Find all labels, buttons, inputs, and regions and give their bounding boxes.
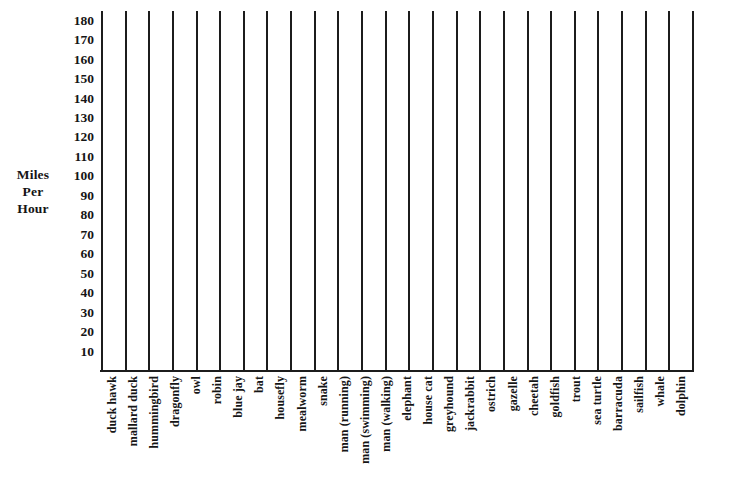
y-tick-label: 40 [34, 286, 94, 300]
x-label-slot: man (swimming) [354, 374, 375, 502]
grid-line [172, 11, 174, 371]
grid-line [503, 11, 505, 371]
x-label-slot: dolphin [671, 374, 692, 502]
x-axis-label: man (walking) [380, 376, 392, 452]
grid-line [125, 11, 127, 371]
y-tick-label: 70 [34, 228, 94, 242]
y-tick-label: 120 [34, 131, 94, 145]
x-label-slot: whale [650, 374, 671, 502]
x-axis-label: greyhound [443, 376, 455, 432]
x-axis-label: owl [190, 376, 202, 394]
x-label-slot: mallard duck [122, 374, 143, 502]
x-axis-label: blue jay [232, 376, 244, 418]
x-axis-label: mallard duck [127, 376, 139, 446]
x-label-slot: goldfish [544, 374, 565, 502]
x-axis-label: duck hawk [106, 376, 118, 433]
y-tick-label: 90 [34, 189, 94, 203]
x-label-slot: gazelle [502, 374, 523, 502]
grid-line [361, 11, 363, 371]
grid-line [692, 11, 694, 371]
x-axis-label: cheetah [528, 376, 540, 416]
x-axis-label: snake [317, 376, 329, 406]
x-axis-label: trout [570, 376, 582, 402]
x-label-slot: elephant [397, 374, 418, 502]
grid-line [550, 11, 552, 371]
x-axis-label: goldfish [549, 376, 561, 417]
grid-line [101, 11, 103, 371]
x-label-slot: duck hawk [101, 374, 122, 502]
x-axis-label: sailfish [633, 376, 645, 413]
y-tick-label: 170 [34, 33, 94, 47]
x-label-slot: robin [207, 374, 228, 502]
x-label-slot: man (walking) [375, 374, 396, 502]
grid-line [337, 11, 339, 371]
grid-line [479, 11, 481, 371]
x-axis-label: barracuda [612, 376, 624, 431]
grid-line [574, 11, 576, 371]
x-axis-label: robin [211, 376, 223, 404]
y-axis-tick-labels: 1801701601501401301201101009080706050403… [0, 0, 100, 380]
y-tick-label: 80 [34, 209, 94, 223]
x-axis-label: ostrich [485, 376, 497, 412]
x-axis-label: dragonfly [169, 376, 181, 427]
x-label-slot: barracuda [608, 374, 629, 502]
grid-line [314, 11, 316, 371]
x-label-slot: mealworm [291, 374, 312, 502]
x-axis-label: jackrabbit [464, 376, 476, 431]
x-axis-label: house cat [422, 376, 434, 425]
grid-line [432, 11, 434, 371]
x-label-slot: ostrich [481, 374, 502, 502]
grid-line [597, 11, 599, 371]
x-label-slot: hummingbird [143, 374, 164, 502]
grid-line [266, 11, 268, 371]
x-label-slot: snake [312, 374, 333, 502]
y-tick-label: 110 [34, 150, 94, 164]
x-label-slot: jackrabbit [460, 374, 481, 502]
grid-line [196, 11, 198, 371]
x-label-slot: sailfish [629, 374, 650, 502]
y-tick-label: 130 [34, 111, 94, 125]
grid-line [290, 11, 292, 371]
x-axis-label: sea turtle [591, 376, 603, 425]
x-axis-label: bat [253, 376, 265, 393]
x-axis-label: whale [654, 376, 666, 407]
x-label-slot: blue jay [228, 374, 249, 502]
x-axis-label: elephant [401, 376, 413, 421]
x-label-slot: sea turtle [586, 374, 607, 502]
x-axis-label: man (running) [338, 376, 350, 452]
x-label-slot: greyhound [439, 374, 460, 502]
speed-bar-chart: Miles Per Hour 1801701601501401301201101… [0, 0, 750, 503]
y-tick-label: 10 [34, 345, 94, 359]
x-label-slot: bat [249, 374, 270, 502]
x-label-slot: man (running) [333, 374, 354, 502]
x-axis-label: gazelle [507, 376, 519, 411]
y-tick-label: 160 [34, 53, 94, 67]
grid-line [527, 11, 529, 371]
x-axis-label: housefly [274, 376, 286, 419]
x-label-slot: cheetah [523, 374, 544, 502]
grid-line [148, 11, 150, 371]
grid-line [219, 11, 221, 371]
plot-area [101, 11, 692, 371]
grid-line [385, 11, 387, 371]
x-axis-label: mealworm [296, 376, 308, 431]
grid-line [668, 11, 670, 371]
x-axis-label: dolphin [675, 376, 687, 416]
x-axis-label: hummingbird [148, 376, 160, 448]
x-label-slot: dragonfly [164, 374, 185, 502]
grid-line [621, 11, 623, 371]
y-tick-label: 180 [34, 14, 94, 28]
x-axis-label: man (swimming) [359, 376, 371, 464]
y-tick-label: 150 [34, 72, 94, 86]
y-tick-label: 60 [34, 247, 94, 261]
x-axis-line [100, 370, 694, 372]
x-label-slot: trout [565, 374, 586, 502]
y-tick-label: 30 [34, 306, 94, 320]
y-tick-label: 140 [34, 92, 94, 106]
grid-line [456, 11, 458, 371]
grid-line [243, 11, 245, 371]
y-tick-label: 20 [34, 325, 94, 339]
x-axis-category-labels: duck hawkmallard duckhummingbirddragonfl… [101, 374, 692, 502]
x-label-slot: house cat [418, 374, 439, 502]
x-label-slot: owl [185, 374, 206, 502]
